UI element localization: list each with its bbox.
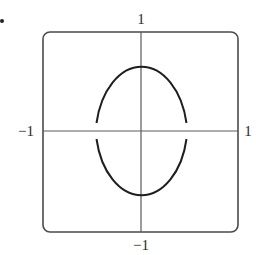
y-min-label: −1 xyxy=(133,237,149,253)
x-max-label: 1 xyxy=(244,123,252,139)
y-max-label: 1 xyxy=(137,11,145,27)
x-min-label: −1 xyxy=(18,123,34,139)
chart-canvas: 1 −1 −1 1 xyxy=(0,0,256,255)
bullet-marker xyxy=(0,19,4,23)
